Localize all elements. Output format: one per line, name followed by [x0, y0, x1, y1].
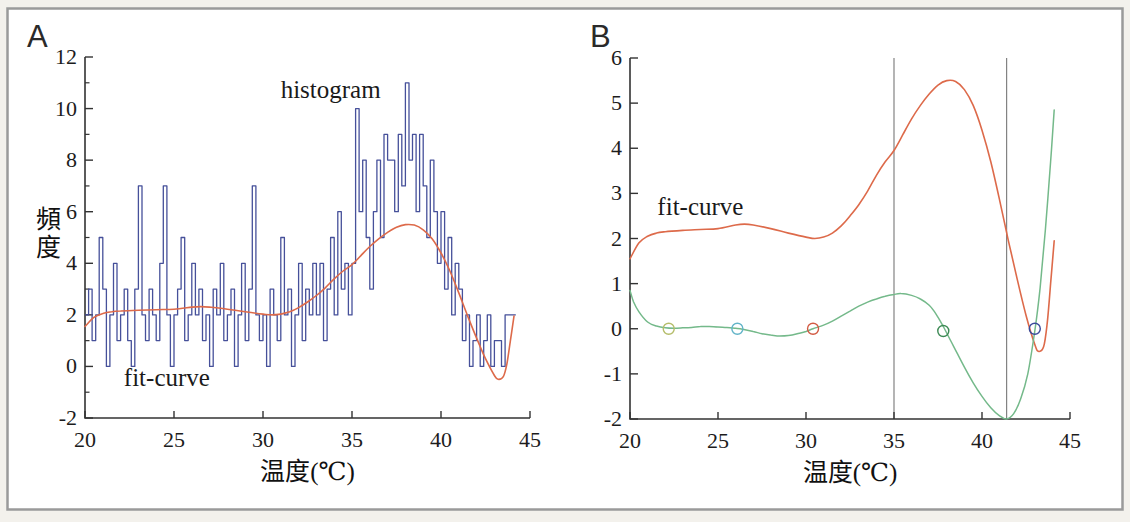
- x-tick-label: 45: [519, 427, 541, 452]
- x-tick-label: 25: [707, 428, 729, 453]
- series-annotation: fit-curve: [657, 193, 743, 220]
- x-tick-label: 20: [619, 428, 641, 453]
- y-tick-label: 2: [611, 226, 622, 251]
- y-tick-label: -2: [604, 406, 622, 431]
- y-tick-label: 0: [611, 316, 622, 341]
- y-tick-label: -2: [59, 405, 77, 430]
- x-tick-label: 40: [430, 427, 452, 452]
- y-tick-label: 5: [611, 90, 622, 115]
- y-tick-label: 0: [66, 353, 77, 378]
- y-tick-label: 12: [55, 44, 77, 69]
- y-tick-label: 6: [611, 45, 622, 70]
- x-tick-label: 35: [883, 428, 905, 453]
- y-tick-label: 4: [66, 250, 77, 275]
- dual-panel-chart: 202530354045-2024681012温度(℃)頻度histogramf…: [0, 0, 1130, 522]
- y-tick-label: 8: [66, 147, 77, 172]
- y-tick-label: 2: [66, 302, 77, 327]
- series-annotation: fit-curve: [124, 364, 210, 391]
- x-tick-label: 30: [252, 427, 274, 452]
- x-tick-label: 35: [341, 427, 363, 452]
- y-tick-label: 4: [611, 135, 622, 160]
- panel-b-label: B: [590, 19, 611, 54]
- series-annotation: histogram: [281, 76, 382, 103]
- y-axis-title-char: 頻: [36, 206, 61, 233]
- y-tick-label: -1: [604, 361, 622, 386]
- panel-a-label: A: [27, 19, 48, 54]
- x-tick-label: 45: [1059, 428, 1081, 453]
- y-tick-label: 10: [55, 96, 77, 121]
- x-axis-title: 温度(℃): [260, 458, 355, 486]
- y-axis-title-char: 度: [36, 234, 61, 261]
- x-tick-label: 20: [74, 427, 96, 452]
- x-tick-label: 30: [795, 428, 817, 453]
- y-tick-label: 6: [66, 199, 77, 224]
- x-tick-label: 40: [971, 428, 993, 453]
- y-tick-label: 3: [611, 180, 622, 205]
- x-tick-label: 25: [163, 427, 185, 452]
- figure-container: 202530354045-2024681012温度(℃)頻度histogramf…: [0, 0, 1130, 522]
- x-axis-title: 温度(℃): [803, 459, 898, 487]
- y-tick-label: 1: [611, 271, 622, 296]
